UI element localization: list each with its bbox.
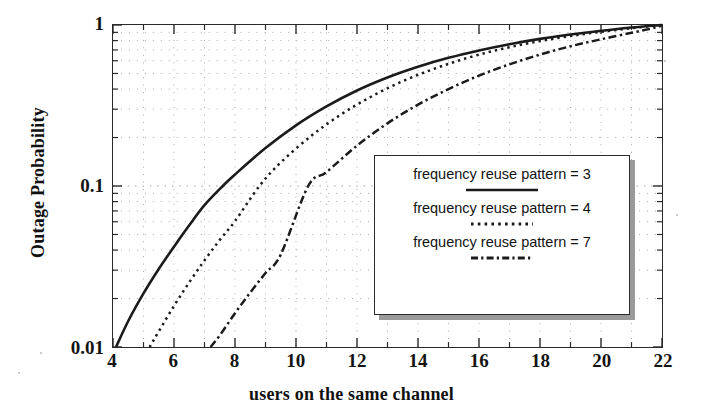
scan-artifact: [18, 372, 20, 374]
x-tick-label-20: 20: [592, 350, 611, 372]
x-tick-label-12: 12: [347, 350, 366, 372]
legend-line-sample-dotted: [383, 217, 621, 231]
x-tick-label-18: 18: [531, 350, 550, 372]
x-tick-label-8: 8: [230, 350, 240, 372]
x-axis-title: users on the same channel: [0, 384, 703, 405]
figure-outage-probability-chart: 46810121416182022 0.010.11 users on the …: [0, 0, 703, 418]
legend-entry-pattern-3: frequency reuse pattern = 3: [383, 165, 621, 197]
x-tick-label-4: 4: [107, 350, 117, 372]
legend-box: frequency reuse pattern = 3 frequency re…: [374, 155, 630, 315]
y-tick-label-0.01: 0.01: [30, 337, 104, 359]
legend-entry-pattern-7: frequency reuse pattern = 7: [383, 233, 621, 265]
legend-line-sample-solid: [383, 183, 621, 197]
y-tick-label-1: 1: [30, 13, 104, 35]
legend-line-sample-dash-dot: [383, 251, 621, 265]
scan-artifact: [40, 352, 42, 354]
scan-artifact: [676, 214, 678, 216]
legend-label-pattern-7: frequency reuse pattern = 7: [383, 233, 621, 251]
y-axis-title: Outage Probability: [28, 73, 49, 293]
x-tick-label-10: 10: [286, 350, 305, 372]
x-tick-label-22: 22: [654, 350, 673, 372]
x-tick-label-16: 16: [470, 350, 489, 372]
scan-artifact: [664, 60, 666, 62]
legend-entry-pattern-4: frequency reuse pattern = 4: [383, 199, 621, 231]
x-tick-label-6: 6: [168, 350, 178, 372]
legend-label-pattern-4: frequency reuse pattern = 4: [383, 199, 621, 217]
legend-label-pattern-3: frequency reuse pattern = 3: [383, 165, 621, 183]
x-tick-label-14: 14: [409, 350, 428, 372]
